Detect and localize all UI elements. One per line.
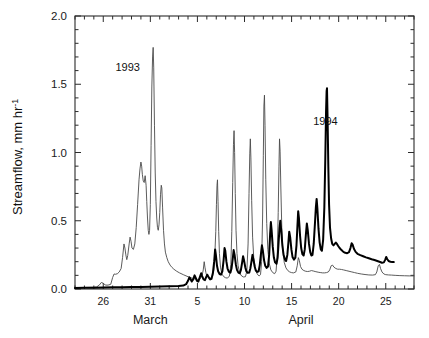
y-tick-label-1.0: 1.0 xyxy=(51,147,67,159)
x-tick-label-15: 15 xyxy=(286,295,298,307)
month-label-march: March xyxy=(133,313,168,327)
month-label-april: April xyxy=(288,313,313,327)
y-axis-title: Streamflow, mm hr-1 xyxy=(10,99,25,215)
y-tick-label-1.5: 1.5 xyxy=(51,78,67,90)
tick-label-layer: 0.00.51.01.52.02631510152025 xyxy=(51,10,392,307)
y-tick-label-2.0: 2.0 xyxy=(51,10,67,22)
streamflow-hydrograph-chart: Streamflow, mm hr-1 0.00.51.01.52.026315… xyxy=(0,0,429,338)
y-axis-title-text: Streamflow, mm hr xyxy=(10,106,25,215)
y-tick-label-0.0: 0.0 xyxy=(51,283,67,295)
y-tick-label-0.5: 0.5 xyxy=(51,215,67,227)
series-annotation-1994: 1994 xyxy=(313,115,337,127)
x-tick-label-10: 10 xyxy=(239,295,251,307)
x-tick-label-26: 26 xyxy=(97,295,109,307)
series-line-1993 xyxy=(75,47,414,287)
x-tick-label-5: 5 xyxy=(194,295,200,307)
x-tick-label-20: 20 xyxy=(333,295,345,307)
plot-frame xyxy=(75,16,414,289)
month-label-layer: MarchApril xyxy=(133,313,314,327)
axes-layer xyxy=(75,16,414,289)
annotation-layer: 19931994 xyxy=(115,61,337,128)
y-axis-title-superscript: -1 xyxy=(10,99,20,107)
series-layer xyxy=(75,47,414,288)
x-tick-label-25: 25 xyxy=(380,295,392,307)
series-annotation-1993: 1993 xyxy=(115,61,139,73)
x-tick-label-31: 31 xyxy=(144,295,156,307)
chart-figure: Streamflow, mm hr-1 0.00.51.01.52.026315… xyxy=(0,0,429,338)
y-axis-title-group: Streamflow, mm hr-1 xyxy=(10,99,25,215)
